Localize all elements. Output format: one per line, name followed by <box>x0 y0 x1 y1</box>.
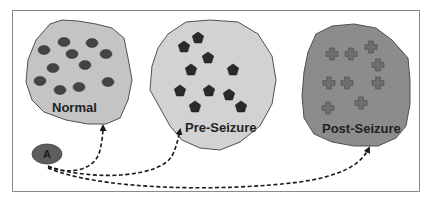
region-label-pre-seizure: Pre-Seizure <box>185 120 257 135</box>
ellipse-marker <box>58 38 70 47</box>
ellipse-marker <box>100 50 112 59</box>
ellipse-marker <box>38 46 50 55</box>
region-normal: Normal <box>26 20 132 124</box>
ellipse-marker <box>79 61 91 70</box>
node-a-label: A <box>43 148 51 160</box>
region-label-normal: Normal <box>52 100 97 115</box>
ellipse-marker <box>54 86 66 95</box>
ellipse-marker <box>66 50 78 59</box>
ellipse-marker <box>34 77 46 86</box>
ellipse-marker <box>47 64 59 73</box>
ellipse-marker <box>102 78 114 87</box>
source-node-a: A <box>32 144 62 164</box>
region-label-post-seizure: Post-Seizure <box>322 121 401 136</box>
ellipse-marker <box>73 83 85 92</box>
ellipse-marker <box>86 39 98 48</box>
region-post-seizure: Post-Seizure <box>302 24 410 146</box>
diagram: Normal Pre-Seizure <box>0 0 431 202</box>
